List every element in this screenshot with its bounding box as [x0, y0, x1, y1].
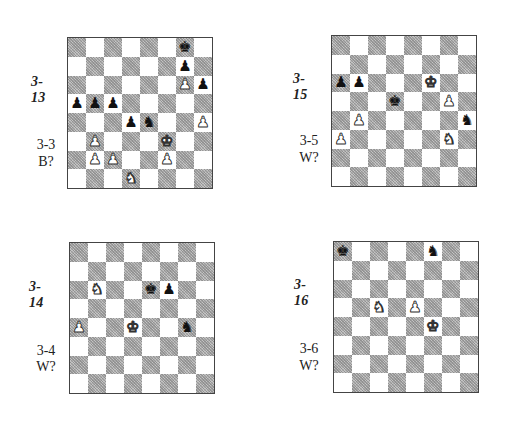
chess-board[interactable]: ♚♞♞♟♚ [333, 241, 479, 393]
square-e6[interactable]: ♚ [142, 281, 160, 300]
square-c6[interactable] [368, 74, 386, 93]
square-b5[interactable] [352, 298, 370, 317]
square-d7[interactable] [124, 262, 142, 281]
square-c3[interactable] [104, 132, 122, 151]
black-knight-icon[interactable]: ♞ [426, 244, 439, 259]
white-pawn-icon[interactable]: ♟ [72, 320, 85, 335]
square-h2[interactable] [460, 355, 478, 374]
square-f4[interactable] [158, 113, 176, 132]
square-c5[interactable] [106, 299, 124, 318]
square-f1[interactable] [158, 169, 176, 188]
square-c6[interactable] [104, 76, 122, 95]
square-c5[interactable]: ♟ [104, 94, 122, 113]
square-h5[interactable] [194, 94, 212, 113]
square-h4[interactable]: ♟ [194, 113, 212, 132]
square-f6[interactable] [424, 280, 442, 299]
white-knight-icon[interactable]: ♞ [124, 171, 137, 186]
square-c4[interactable] [370, 317, 388, 336]
square-b7[interactable] [350, 55, 368, 74]
square-c8[interactable] [104, 38, 122, 57]
black-pawn-icon[interactable]: ♟ [70, 96, 83, 111]
white-pawn-icon[interactable]: ♟ [160, 152, 173, 167]
square-f3[interactable]: ♚ [158, 132, 176, 151]
square-g6[interactable] [178, 281, 196, 300]
square-c8[interactable] [368, 36, 386, 55]
black-pawn-icon[interactable]: ♟ [162, 282, 175, 297]
square-d4[interactable]: ♚ [124, 318, 142, 337]
square-f8[interactable] [422, 36, 440, 55]
square-d5[interactable] [388, 298, 406, 317]
square-e1[interactable] [404, 167, 422, 186]
square-a7[interactable] [70, 262, 88, 281]
square-d6[interactable] [388, 280, 406, 299]
square-a7[interactable] [332, 55, 350, 74]
square-g5[interactable] [442, 298, 460, 317]
square-a3[interactable] [68, 132, 86, 151]
white-pawn-icon[interactable]: ♟ [88, 152, 101, 167]
square-h4[interactable]: ♞ [458, 111, 476, 130]
white-knight-icon[interactable]: ♞ [90, 282, 103, 297]
square-a1[interactable] [70, 374, 88, 393]
square-g6[interactable] [442, 280, 460, 299]
black-pawn-icon[interactable]: ♟ [352, 75, 365, 90]
square-c8[interactable] [106, 243, 124, 262]
square-h3[interactable] [460, 336, 478, 355]
square-b2[interactable] [352, 355, 370, 374]
square-c4[interactable] [106, 318, 124, 337]
square-b6[interactable]: ♞ [88, 281, 106, 300]
square-d2[interactable] [122, 151, 140, 170]
square-d5[interactable] [122, 94, 140, 113]
square-f2[interactable] [160, 356, 178, 375]
square-a3[interactable] [334, 336, 352, 355]
square-b5[interactable] [350, 92, 368, 111]
square-a2[interactable] [70, 356, 88, 375]
square-f8[interactable]: ♞ [424, 242, 442, 261]
square-b2[interactable] [350, 149, 368, 168]
square-c7[interactable] [370, 261, 388, 280]
square-d4[interactable] [388, 317, 406, 336]
square-e5[interactable]: ♟ [406, 298, 424, 317]
square-e2[interactable] [142, 356, 160, 375]
square-d7[interactable] [122, 57, 140, 76]
square-b4[interactable] [352, 317, 370, 336]
square-a1[interactable] [68, 169, 86, 188]
square-b4[interactable]: ♟ [350, 111, 368, 130]
square-e2[interactable] [140, 151, 158, 170]
square-e8[interactable] [140, 38, 158, 57]
square-d1[interactable] [388, 373, 406, 392]
chess-board[interactable]: ♚♟♟♟♟♟♟♟♞♟♟♚♟♟♟♞ [67, 37, 213, 189]
square-h7[interactable] [194, 57, 212, 76]
square-c6[interactable] [106, 281, 124, 300]
square-b1[interactable] [352, 373, 370, 392]
square-f7[interactable] [424, 261, 442, 280]
square-c7[interactable] [106, 262, 124, 281]
black-king-icon[interactable]: ♚ [144, 282, 157, 297]
square-b2[interactable] [88, 356, 106, 375]
square-h7[interactable] [460, 261, 478, 280]
square-d6[interactable] [122, 76, 140, 95]
square-e3[interactable] [404, 130, 422, 149]
square-d3[interactable] [122, 132, 140, 151]
square-b7[interactable] [86, 57, 104, 76]
square-h3[interactable] [458, 130, 476, 149]
square-g4[interactable] [440, 111, 458, 130]
square-a2[interactable] [68, 151, 86, 170]
square-h8[interactable] [196, 243, 214, 262]
black-knight-icon[interactable]: ♞ [180, 320, 193, 335]
square-g4[interactable]: ♞ [178, 318, 196, 337]
square-g6[interactable] [440, 74, 458, 93]
square-h6[interactable] [458, 74, 476, 93]
square-e4[interactable]: ♞ [140, 113, 158, 132]
square-b1[interactable] [88, 374, 106, 393]
square-e1[interactable] [406, 373, 424, 392]
square-h1[interactable] [194, 169, 212, 188]
black-knight-icon[interactable]: ♞ [142, 115, 155, 130]
square-f3[interactable] [160, 337, 178, 356]
square-c7[interactable] [368, 55, 386, 74]
square-a8[interactable] [332, 36, 350, 55]
square-d6[interactable] [386, 74, 404, 93]
square-a3[interactable] [70, 337, 88, 356]
square-c1[interactable] [104, 169, 122, 188]
square-f8[interactable] [160, 243, 178, 262]
square-b6[interactable] [352, 280, 370, 299]
